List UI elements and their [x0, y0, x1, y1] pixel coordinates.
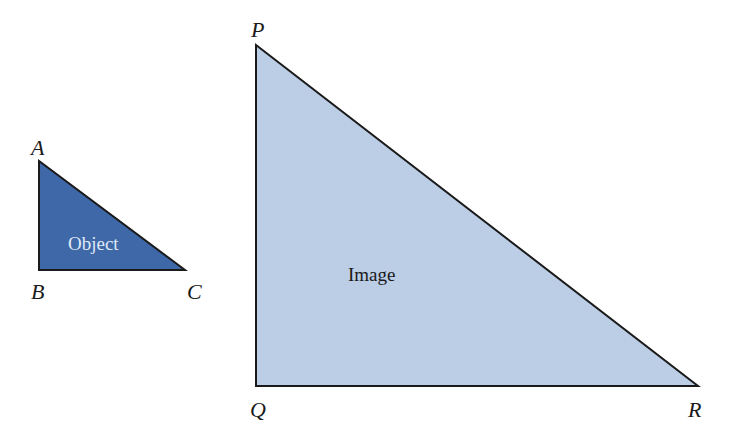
vertex-label-r: R	[687, 397, 702, 422]
vertex-label-q: Q	[250, 397, 266, 422]
image-triangle	[256, 45, 698, 386]
object-label: Object	[68, 233, 119, 254]
similar-triangles-diagram: Object A B C Image P Q R	[0, 0, 743, 440]
image-label: Image	[348, 264, 395, 285]
vertex-label-a: A	[29, 135, 45, 160]
vertex-label-p: P	[250, 17, 264, 42]
vertex-label-c: C	[187, 279, 202, 304]
vertex-label-b: B	[31, 279, 44, 304]
